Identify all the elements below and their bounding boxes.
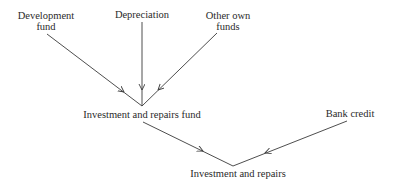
node-development-fund-line1: Development	[14, 10, 78, 21]
node-development-fund: Development fund	[14, 10, 78, 32]
node-investment-repairs-fund: Investment and repairs fund	[62, 109, 222, 120]
node-investment-repairs-fund-label: Investment and repairs fund	[62, 109, 222, 120]
edge-other-own-funds	[142, 33, 217, 106]
node-bank-credit-label: Bank credit	[320, 108, 380, 119]
node-depreciation-label: Depreciation	[112, 9, 172, 20]
node-bank-credit: Bank credit	[320, 108, 380, 119]
node-other-own-funds: Other own funds	[198, 10, 258, 32]
edge-investment-repairs-fund	[143, 122, 233, 166]
node-other-own-funds-line1: Other own	[198, 10, 258, 21]
node-depreciation: Depreciation	[112, 9, 172, 20]
edge-bank-credit	[233, 121, 347, 166]
node-development-fund-line2: fund	[14, 21, 78, 32]
edge-development-fund	[47, 34, 142, 106]
node-investment-repairs: Investment and repairs	[183, 168, 293, 179]
node-investment-repairs-label: Investment and repairs	[183, 168, 293, 179]
funding-flow-diagram: Development fund Depreciation Other own …	[0, 0, 399, 186]
node-other-own-funds-line2: funds	[198, 21, 258, 32]
